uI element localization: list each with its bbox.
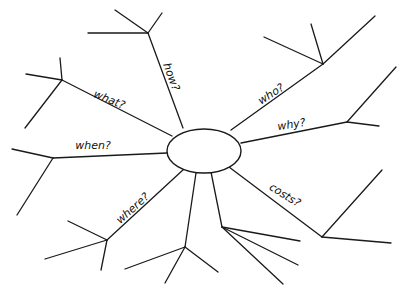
sub-branch-what <box>26 74 62 80</box>
branch-costs <box>229 167 391 243</box>
sub-branch-who <box>264 37 323 64</box>
label-when: when? <box>75 139 111 152</box>
center-ellipse <box>167 129 241 173</box>
sub-branch-bottom-left <box>185 247 218 272</box>
branch-line-bottom-right <box>211 172 222 227</box>
branch-line-when <box>53 153 167 158</box>
sub-branch-where <box>45 240 107 259</box>
sub-branch-how <box>115 10 148 33</box>
branch-line-costs <box>229 167 322 237</box>
branch-line-bottom-left <box>185 173 196 247</box>
sub-branch-bottom-right <box>222 227 298 265</box>
sub-branch-why <box>347 122 379 126</box>
sub-branch-costs <box>322 237 391 243</box>
branch-bottom-left <box>125 173 218 283</box>
sub-branch-bottom-right <box>222 227 283 284</box>
sub-branch-who <box>323 16 375 64</box>
sub-branch-when <box>17 158 53 215</box>
label-who: who? <box>256 81 287 108</box>
label-costs: costs? <box>267 180 303 209</box>
sub-branch-when <box>12 149 53 158</box>
sub-branch-why <box>347 67 396 122</box>
sub-branch-what <box>25 80 62 128</box>
sub-branch-how <box>148 13 162 33</box>
sub-branch-where <box>101 240 107 270</box>
label-where: where? <box>113 190 151 226</box>
sub-branch-who <box>311 24 323 64</box>
spider-diagram: how?what?when?where?costs?why?who? <box>0 0 403 293</box>
sub-branch-costs <box>322 170 382 237</box>
sub-branch-bottom-left <box>125 247 185 269</box>
sub-branch-what <box>60 58 62 80</box>
sub-branch-bottom-left <box>165 247 185 283</box>
sub-branch-bottom-right <box>222 227 300 241</box>
branch-who <box>231 16 375 130</box>
sub-branch-where <box>68 221 107 240</box>
label-what: what? <box>92 88 127 112</box>
